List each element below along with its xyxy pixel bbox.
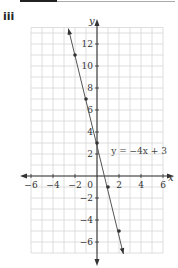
svg-text:x: x	[168, 172, 174, 183]
svg-text:−4: −4	[80, 215, 94, 225]
svg-text:2: 2	[116, 180, 122, 190]
svg-text:2: 2	[87, 149, 93, 159]
svg-text:10: 10	[82, 61, 94, 71]
svg-text:12: 12	[82, 39, 93, 49]
svg-text:−6: −6	[80, 237, 94, 247]
svg-text:4: 4	[138, 180, 144, 190]
svg-text:8: 8	[87, 83, 93, 93]
svg-text:−2: −2	[68, 180, 81, 190]
svg-text:−6: −6	[24, 180, 38, 190]
line-graph: xy −6−4−224612108642−2−4−60 y = −4x + 3	[0, 0, 178, 268]
svg-text:0: 0	[87, 180, 93, 190]
svg-text:−4: −4	[46, 180, 60, 190]
svg-text:6: 6	[160, 180, 166, 190]
axes: xy	[20, 15, 174, 266]
svg-text:−2: −2	[80, 193, 93, 203]
equation-label: y = −4x + 3	[110, 146, 167, 156]
svg-text:y: y	[88, 15, 95, 26]
